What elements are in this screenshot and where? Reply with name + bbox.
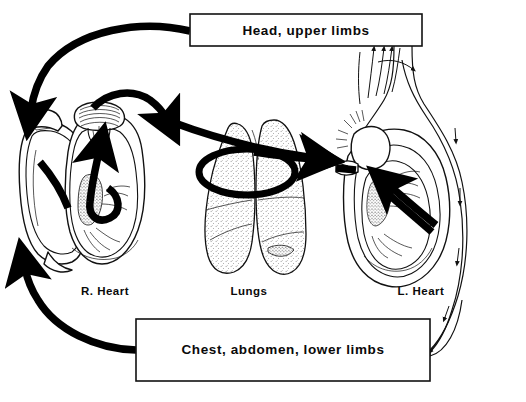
head-upper-limbs-label: Head, upper limbs	[242, 23, 369, 38]
box-chest-abdomen-lower-limbs[interactable]: Chest, abdomen, lower limbs	[136, 319, 430, 381]
lungs-label: Lungs	[231, 285, 268, 297]
right-ventricle-outline	[65, 114, 144, 265]
arch-flow-arrow	[378, 60, 414, 70]
circulation-diagram-figure: Head, upper limbs Chest, abdomen, lower …	[0, 0, 526, 402]
left-atrium-inflow-mark	[336, 168, 356, 170]
superior-vena-cava-opening	[30, 110, 62, 131]
diagram-canvas: Head, upper limbs Chest, abdomen, lower …	[0, 0, 526, 402]
chest-abdomen-lower-limbs-label: Chest, abdomen, lower limbs	[182, 342, 385, 357]
flow-lower-body-to-right-heart	[25, 268, 136, 350]
box-head-upper-limbs[interactable]: Head, upper limbs	[190, 14, 422, 46]
left-heart-label: L. Heart	[398, 285, 445, 297]
right-heart-label: R. Heart	[81, 285, 129, 297]
right-heart-illustration	[19, 102, 144, 272]
